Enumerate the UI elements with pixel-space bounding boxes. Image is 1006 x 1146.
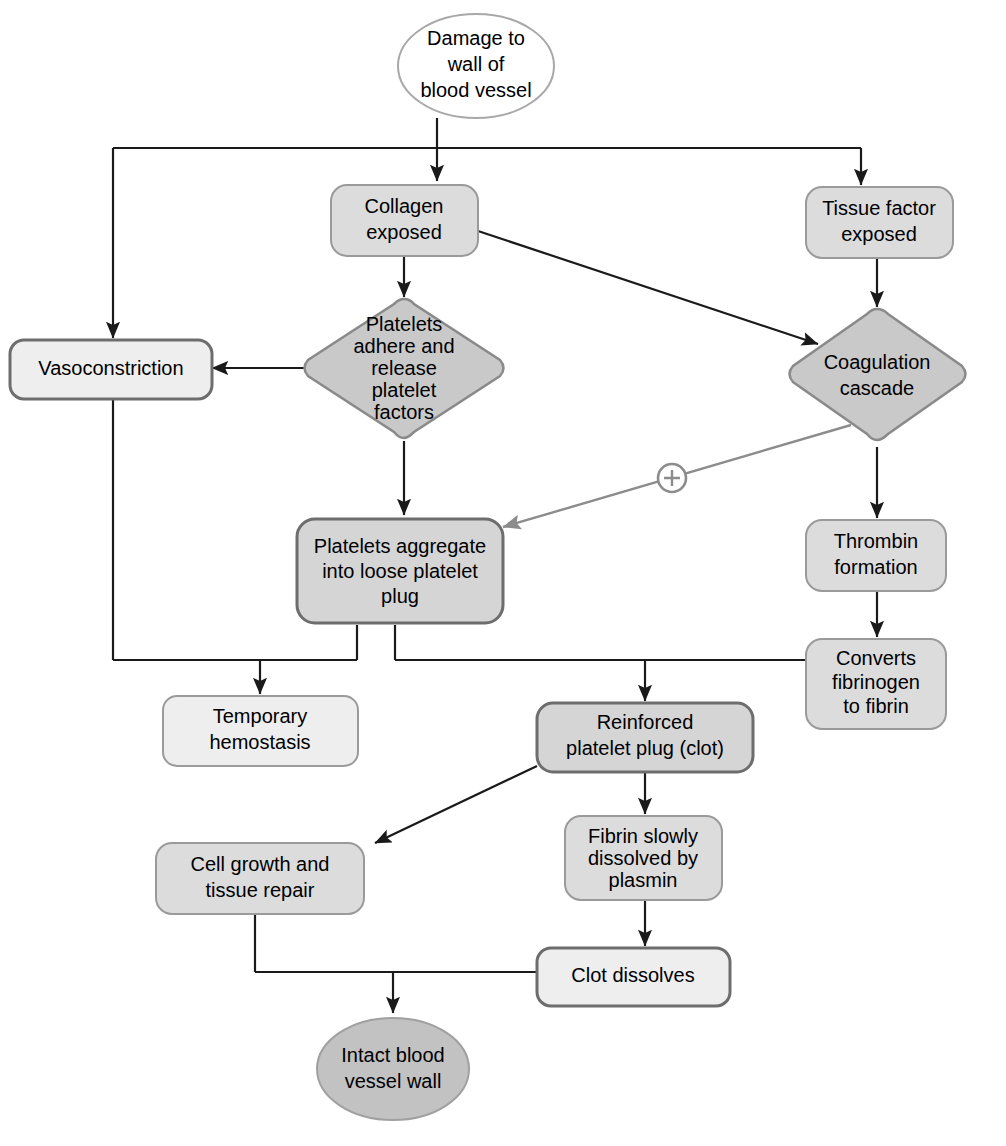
node-converts-label-2: fibrinogen [832, 671, 920, 693]
node-thrombin-label-2: formation [834, 556, 917, 578]
node-tissue-factor[interactable]: Tissue factor exposed [806, 187, 953, 258]
node-vasoconstriction-label-1: Vasoconstriction [38, 357, 183, 379]
node-platelet-plug-label-1: Platelets aggregate [314, 535, 486, 557]
node-converts[interactable]: Converts fibrinogen to fibrin [806, 639, 946, 729]
node-platelets-adhere-label-2: adhere and [353, 335, 454, 357]
node-collagen-label-2: exposed [366, 221, 442, 243]
node-intact[interactable]: Intact blood vessel wall [317, 1018, 469, 1120]
node-fibrin-dissolved-label-2: dissolved by [588, 847, 698, 869]
node-platelets-adhere-label-3: release [371, 357, 437, 379]
node-reinforced[interactable]: Reinforced platelet plug (clot) [537, 703, 753, 772]
node-fibrin-dissolved-label-3: plasmin [609, 869, 678, 891]
node-temporary-hemostasis-label-1: Temporary [213, 705, 307, 727]
node-damage-label-2: wall of [447, 53, 505, 75]
node-layer: Damage to wall of blood vessel Collagen … [10, 14, 966, 1120]
edge-collagen-to-coagulation [478, 231, 818, 344]
node-platelets-adhere-label-1: Platelets [366, 313, 443, 335]
node-collagen-label-1: Collagen [365, 195, 444, 217]
node-collagen[interactable]: Collagen exposed [331, 185, 478, 256]
node-temporary-hemostasis[interactable]: Temporary hemostasis [163, 696, 358, 766]
node-vasoconstriction[interactable]: Vasoconstriction [10, 340, 212, 399]
node-coagulation-label-1: Coagulation [824, 351, 931, 373]
node-cell-growth-label-2: tissue repair [206, 879, 315, 901]
node-intact-label-1: Intact blood [341, 1044, 444, 1066]
node-thrombin[interactable]: Thrombin formation [806, 520, 946, 591]
node-temporary-hemostasis-label-2: hemostasis [209, 731, 310, 753]
node-damage-label-1: Damage to [427, 27, 525, 49]
node-intact-label-2: vessel wall [345, 1070, 442, 1092]
node-platelet-plug-label-3: plug [381, 585, 419, 607]
node-coagulation-shape [790, 309, 966, 440]
node-reinforced-label-1: Reinforced [597, 711, 694, 733]
node-converts-label-1: Converts [836, 647, 916, 669]
node-platelet-plug-label-2: into loose platelet [322, 560, 478, 582]
node-cell-growth[interactable]: Cell growth and tissue repair [156, 843, 364, 914]
node-coagulation[interactable]: Coagulation cascade [790, 309, 966, 440]
node-coagulation-label-2: cascade [840, 377, 915, 399]
node-tissue-factor-label-1: Tissue factor [822, 197, 936, 219]
node-converts-label-3: to fibrin [843, 695, 909, 717]
node-clot-dissolves[interactable]: Clot dissolves [537, 948, 730, 1006]
node-platelets-adhere[interactable]: Platelets adhere and release platelet fa… [305, 299, 504, 438]
edge-reinforced-to-cell-growth [375, 766, 537, 843]
node-platelets-adhere-label-5: factors [374, 401, 434, 423]
node-cell-growth-label-1: Cell growth and [191, 853, 330, 875]
node-clot-dissolves-label-1: Clot dissolves [571, 964, 694, 986]
node-fibrin-dissolved-label-1: Fibrin slowly [588, 825, 698, 847]
node-tissue-factor-label-2: exposed [841, 223, 917, 245]
node-thrombin-label-1: Thrombin [834, 530, 918, 552]
node-damage[interactable]: Damage to wall of blood vessel [398, 14, 554, 118]
node-intact-shape [317, 1018, 469, 1120]
node-reinforced-label-2: platelet plug (clot) [566, 737, 724, 759]
node-platelets-adhere-label-4: platelet [372, 379, 437, 401]
node-fibrin-dissolved[interactable]: Fibrin slowly dissolved by plasmin [565, 816, 722, 900]
node-damage-label-3: blood vessel [420, 79, 531, 101]
hemostasis-flowchart: Damage to wall of blood vessel Collagen … [0, 0, 1006, 1146]
node-platelet-plug[interactable]: Platelets aggregate into loose platelet … [297, 519, 503, 623]
